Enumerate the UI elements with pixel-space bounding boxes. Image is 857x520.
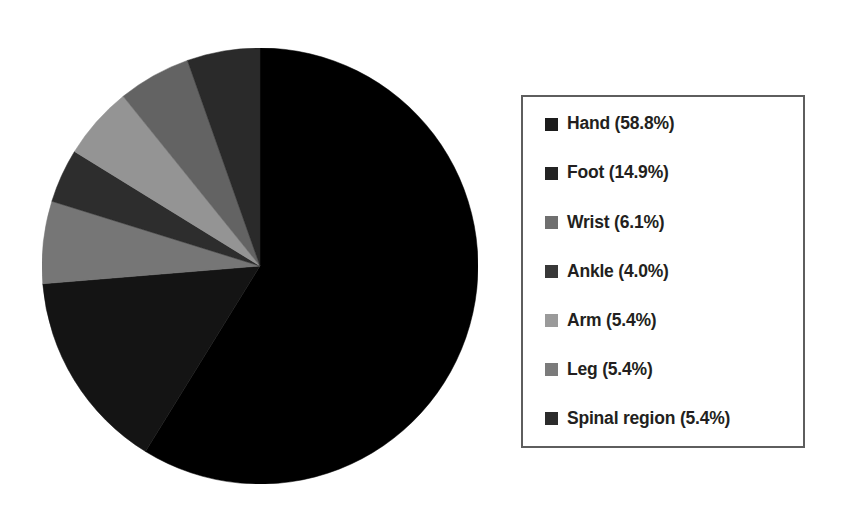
legend-item-spinal-region[interactable]: Spinal region (5.4%) bbox=[545, 406, 793, 432]
chart-legend: Hand (58.8%) Foot (14.9%) Wrist (6.1%) A… bbox=[521, 95, 805, 448]
legend-item-wrist[interactable]: Wrist (6.1%) bbox=[545, 209, 793, 235]
legend-swatch-hand-icon bbox=[545, 118, 558, 131]
legend-swatch-leg-icon bbox=[545, 363, 558, 376]
pie-chart-plot-area bbox=[42, 48, 478, 484]
legend-swatch-wrist-icon bbox=[545, 216, 558, 229]
pie-slice-group bbox=[42, 48, 478, 484]
legend-swatch-ankle-icon bbox=[545, 265, 558, 278]
pie-chart-figure: Hand (58.8%) Foot (14.9%) Wrist (6.1%) A… bbox=[0, 0, 857, 520]
legend-label-arm: Arm (5.4%) bbox=[567, 312, 656, 330]
legend-label-ankle: Ankle (4.0%) bbox=[567, 263, 669, 281]
legend-label-hand: Hand (58.8%) bbox=[567, 115, 675, 133]
legend-swatch-spinal-region-icon bbox=[545, 412, 558, 425]
legend-label-spinal-region: Spinal region (5.4%) bbox=[567, 410, 730, 428]
legend-label-wrist: Wrist (6.1%) bbox=[567, 214, 664, 232]
legend-swatch-arm-icon bbox=[545, 314, 558, 327]
legend-swatch-foot-icon bbox=[545, 167, 558, 180]
legend-item-ankle[interactable]: Ankle (4.0%) bbox=[545, 258, 793, 284]
legend-item-leg[interactable]: Leg (5.4%) bbox=[545, 357, 793, 383]
legend-label-leg: Leg (5.4%) bbox=[567, 361, 653, 379]
legend-label-foot: Foot (14.9%) bbox=[567, 164, 669, 182]
legend-item-foot[interactable]: Foot (14.9%) bbox=[545, 160, 793, 186]
legend-item-arm[interactable]: Arm (5.4%) bbox=[545, 308, 793, 334]
pie-chart-svg bbox=[42, 48, 478, 484]
legend-item-hand[interactable]: Hand (58.8%) bbox=[545, 111, 793, 137]
